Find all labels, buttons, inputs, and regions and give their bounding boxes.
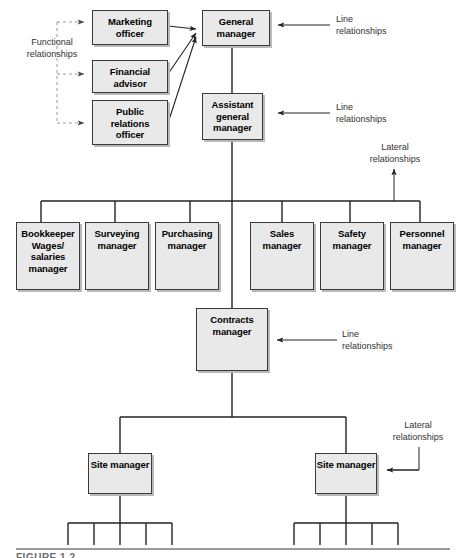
- node-marketing-officer[interactable]: Marketingofficer: [92, 10, 168, 45]
- figure-caption: FIGURE 1.2: [16, 552, 75, 558]
- node-site-manager-left[interactable]: Site manager: [88, 453, 152, 494]
- node-personnel-manager[interactable]: Personnelmanager: [390, 222, 454, 290]
- label-lateral-relationships-top: Lateralrelationships: [345, 142, 445, 165]
- caption-divider: [16, 548, 450, 550]
- left-site-subordinate-lines: [68, 494, 172, 545]
- node-contracts-manager[interactable]: Contractsmanager: [196, 308, 268, 371]
- label-line-relationships-assistant-general-manager: Linerelationships: [336, 102, 446, 125]
- node-safety-manager[interactable]: Safetymanager: [320, 222, 384, 290]
- node-financial-advisor[interactable]: Financialadvisor: [92, 60, 168, 93]
- node-bookkeeper-wages-salaries-manager[interactable]: BookkeeperWages/salariesmanager: [16, 222, 80, 290]
- department-bus-lines: [41, 201, 420, 222]
- label-line-relationships-general-manager: Linerelationships: [336, 14, 446, 37]
- node-site-manager-right[interactable]: Site manager: [315, 453, 377, 494]
- organizational-chart: Marketingofficer Financialadvisor Public…: [0, 0, 466, 558]
- label-line-relationships-contracts-manager: Linerelationships: [342, 329, 452, 352]
- node-public-relations-officer[interactable]: Publicrelationsofficer: [92, 100, 168, 145]
- site-bus-lines: [120, 417, 346, 453]
- node-purchasing-manager[interactable]: Purchasingmanager: [155, 222, 219, 290]
- node-sales-manager[interactable]: Salesmanager: [250, 222, 314, 290]
- label-functional-relationships: Functionalrelationships: [8, 37, 96, 60]
- node-assistant-general-manager[interactable]: Assistantgeneralmanager: [202, 93, 263, 140]
- advisor-to-general-manager-lines: [168, 26, 196, 123]
- right-site-subordinate-lines: [294, 494, 398, 545]
- label-lateral-relationships-bottom: Lateralrelationships: [372, 420, 464, 443]
- node-surveying-manager[interactable]: Surveyingmanager: [85, 222, 149, 290]
- node-general-manager[interactable]: Generalmanager: [202, 10, 270, 46]
